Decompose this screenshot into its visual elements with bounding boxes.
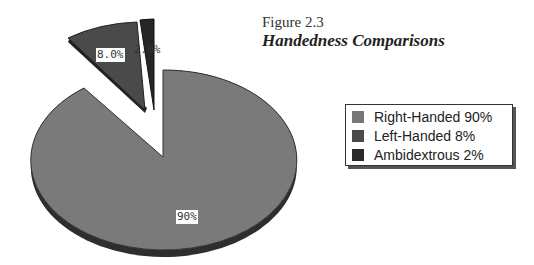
legend: Right-Handed 90% Left-Handed 8% Ambidext… (345, 104, 513, 166)
legend-item-right-handed: Right-Handed 90% (346, 107, 512, 126)
slice-right-handed[interactable] (31, 70, 297, 250)
legend-label: Right-Handed 90% (374, 109, 492, 125)
label-ambidextrous: 2.0% (133, 43, 162, 57)
figure-number: Figure 2.3 (262, 14, 324, 31)
label-right-handed: 90% (176, 210, 198, 224)
label-left-handed: 8.0% (96, 48, 125, 62)
legend-item-ambidextrous: Ambidextrous 2% (346, 145, 512, 164)
legend-swatch-right-handed (352, 111, 364, 123)
legend-label: Left-Handed 8% (374, 128, 475, 144)
legend-swatch-ambidextrous (352, 149, 364, 161)
legend-item-left-handed: Left-Handed 8% (346, 126, 512, 145)
legend-label: Ambidextrous 2% (374, 147, 484, 163)
figure-title: Handedness Comparisons (262, 31, 445, 51)
legend-swatch-left-handed (352, 130, 364, 142)
